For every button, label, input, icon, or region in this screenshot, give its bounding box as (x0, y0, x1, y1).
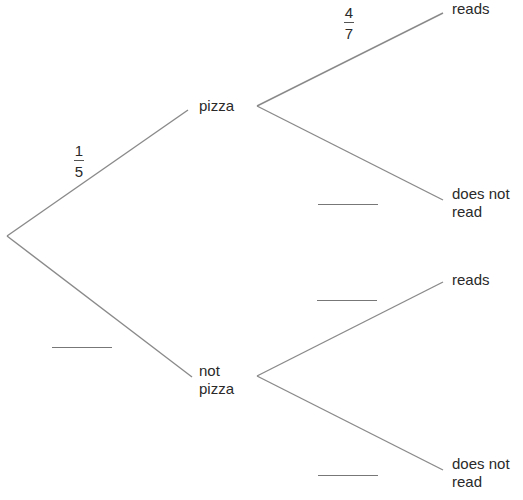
node-not-pizza-reads: reads (452, 271, 490, 289)
node-pizza-does-not-read-line2: read (452, 203, 510, 221)
node-not-pizza-line2: pizza (199, 380, 234, 398)
blank-not-pizza[interactable] (52, 347, 112, 348)
node-pizza-does-not-read: does not read (452, 185, 510, 221)
fraction-bar (344, 22, 354, 23)
branch-root-to-pizza (7, 110, 188, 236)
numerator: 1 (75, 143, 83, 158)
blank-pizza-does-not-read[interactable] (318, 204, 378, 205)
branch-not-pizza-to-does-not-read (257, 376, 443, 470)
probability-pizza: 1 5 (74, 143, 84, 179)
node-not-pizza-does-not-read: does not read (452, 455, 510, 491)
tree-branches (0, 0, 523, 500)
node-pizza-does-not-read-line1: does not (452, 185, 510, 203)
node-not-pizza: not pizza (199, 362, 234, 398)
node-not-pizza-does-not-read-line1: does not (452, 455, 510, 473)
probability-pizza-reads: 4 7 (344, 5, 354, 41)
denominator: 5 (75, 164, 83, 179)
blank-not-pizza-reads[interactable] (317, 300, 377, 301)
numerator: 4 (345, 5, 353, 20)
branch-not-pizza-to-reads (257, 282, 443, 376)
node-not-pizza-does-not-read-line2: read (452, 473, 510, 491)
node-pizza-reads: reads (452, 0, 490, 18)
blank-not-pizza-does-not-read[interactable] (318, 475, 378, 476)
branch-pizza-to-does-not-read (257, 106, 443, 200)
node-not-pizza-line1: not (199, 362, 234, 380)
node-pizza: pizza (199, 97, 234, 115)
denominator: 7 (345, 26, 353, 41)
branch-root-to-not-pizza (7, 236, 192, 377)
fraction-bar (74, 160, 84, 161)
